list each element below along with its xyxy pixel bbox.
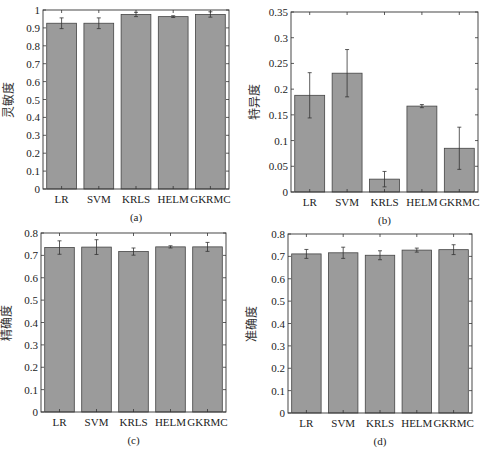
y-tick-label: 0.4 <box>271 318 285 330</box>
bar-gkrmc <box>193 247 223 412</box>
bar-lr <box>47 23 77 189</box>
x-tick-label: GKRMC <box>187 416 227 428</box>
y-tick-label: 0.1 <box>271 385 285 397</box>
bar-svm <box>84 23 114 189</box>
panel-caption: (d) <box>374 435 387 448</box>
y-axis-label: 准确度 <box>244 306 259 342</box>
y-tick-label: 0.1 <box>24 384 38 396</box>
figure: LRSVMKRLSHELMGKRMC00.10.20.30.40.50.60.7… <box>0 0 480 449</box>
bar-helm <box>407 106 437 192</box>
x-tick-label: KRLS <box>366 417 394 429</box>
x-tick-label: SVM <box>335 196 359 208</box>
bar-svm <box>82 247 112 412</box>
x-tick-label: SVM <box>87 193 111 205</box>
y-tick-label: 0.5 <box>24 294 38 306</box>
y-tick-label: 0.6 <box>24 272 38 284</box>
y-tick-label: 0.8 <box>271 228 285 240</box>
y-tick-label: 0.15 <box>269 109 289 121</box>
bar-krls <box>119 252 149 412</box>
x-tick-label: GKRMC <box>190 193 230 205</box>
bar-krls <box>365 255 394 413</box>
bar-lr <box>292 254 321 413</box>
y-tick-label: 0.25 <box>269 57 289 69</box>
bar-gkrmc <box>196 14 226 189</box>
y-tick-label: 0.3 <box>274 32 288 44</box>
x-tick-label: KRLS <box>122 193 150 205</box>
y-tick-label: 0.3 <box>26 129 40 141</box>
y-tick-label: 0.3 <box>271 340 285 352</box>
x-tick-label: HELM <box>406 196 437 208</box>
panel-caption: (c) <box>127 434 140 447</box>
y-axis-label: 特异度 <box>247 84 262 120</box>
x-tick-label: HELM <box>158 193 189 205</box>
y-tick-label: 0 <box>280 407 286 419</box>
bar-helm <box>158 17 188 189</box>
y-tick-label: 0.2 <box>26 147 40 159</box>
y-tick-label: 0.6 <box>26 76 40 88</box>
panel-caption: (a) <box>130 211 143 224</box>
y-tick-label: 0.1 <box>26 165 40 177</box>
panel-caption: (b) <box>378 214 391 227</box>
y-tick-label: 0 <box>33 406 39 418</box>
chart-panel-b: LRSVMKRLSHELMGKRMC00.050.10.150.20.250.3… <box>247 6 479 227</box>
y-tick-label: 0.2 <box>271 362 285 374</box>
y-axis-label: 精确度 <box>0 305 14 341</box>
y-tick-label: 0.7 <box>271 250 285 262</box>
y-tick-label: 0.6 <box>271 273 285 285</box>
x-tick-label: SVM <box>331 417 355 429</box>
bar-helm <box>402 250 431 413</box>
chart-panel-a: LRSVMKRLSHELMGKRMC00.10.20.30.40.50.60.7… <box>1 4 231 224</box>
y-tick-label: 0.2 <box>274 83 288 95</box>
y-tick-label: 0 <box>283 186 289 198</box>
y-tick-label: 0.05 <box>269 160 289 172</box>
x-tick-label: HELM <box>401 417 432 429</box>
y-tick-label: 0.4 <box>24 317 38 329</box>
y-tick-label: 0.1 <box>274 135 288 147</box>
x-tick-label: LR <box>52 416 67 428</box>
y-tick-label: 0.7 <box>24 249 38 261</box>
y-tick-label: 0.2 <box>24 361 38 373</box>
x-tick-label: SVM <box>85 416 109 428</box>
y-tick-label: 0.8 <box>24 227 38 239</box>
y-tick-label: 1 <box>35 4 41 16</box>
x-tick-label: LR <box>299 417 314 429</box>
y-axis-label: 灵敏度 <box>1 82 16 118</box>
x-tick-label: LR <box>303 196 318 208</box>
x-tick-label: KRLS <box>370 196 398 208</box>
x-tick-label: KRLS <box>119 416 147 428</box>
y-tick-label: 0.8 <box>26 40 40 52</box>
x-tick-label: HELM <box>155 416 186 428</box>
y-tick-label: 0 <box>35 183 41 195</box>
y-tick-label: 0.5 <box>26 94 40 106</box>
bar-svm <box>328 253 357 413</box>
y-tick-label: 0.5 <box>271 295 285 307</box>
y-tick-label: 0.9 <box>26 22 40 34</box>
bar-helm <box>156 247 186 412</box>
x-tick-label: GKRMC <box>439 196 479 208</box>
y-tick-label: 0.3 <box>24 339 38 351</box>
x-tick-label: LR <box>55 193 70 205</box>
bar-krls <box>121 14 151 189</box>
bar-gkrmc <box>439 250 468 413</box>
chart-panel-c: LRSVMKRLSHELMGKRMC00.10.20.30.40.50.60.7… <box>0 227 228 447</box>
chart-panel-d: LRSVMKRLSHELMGKRMC00.10.20.30.40.50.60.7… <box>244 228 474 448</box>
bar-lr <box>45 248 75 412</box>
y-tick-label: 0.35 <box>269 6 289 18</box>
y-tick-label: 0.7 <box>26 58 40 70</box>
y-tick-label: 0.4 <box>26 111 40 123</box>
x-tick-label: GKRMC <box>433 417 473 429</box>
